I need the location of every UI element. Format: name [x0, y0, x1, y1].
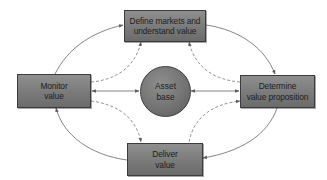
hub-asset-base: Asset base	[140, 66, 191, 117]
dashed-deliver-to-determine	[189, 101, 240, 142]
dashed-determine-to-define	[189, 42, 240, 82]
node-deliver-label: Deliver value	[152, 149, 177, 170]
arrow-define-to-determine	[206, 25, 275, 74]
arrow-deliver-to-monitor	[56, 108, 127, 160]
arrow-monitor-to-define	[55, 25, 123, 74]
arrow-determine-to-deliver	[203, 108, 277, 158]
node-monitor-value: Monitor value	[17, 74, 91, 108]
dashed-monitor-to-deliver	[91, 101, 141, 142]
dashed-monitor-to-define	[91, 42, 141, 82]
node-determine-value-proposition: Determine value proposition	[240, 75, 315, 108]
node-define-markets: Define markets and understand value	[124, 10, 206, 42]
node-determine-label: Determine value proposition	[247, 81, 309, 102]
node-monitor-label: Monitor value	[40, 81, 67, 102]
node-define-markets-label: Define markets and understand value	[130, 16, 201, 37]
node-deliver-value: Deliver value	[127, 143, 203, 176]
hub-asset-base-label: Asset base	[155, 81, 176, 102]
